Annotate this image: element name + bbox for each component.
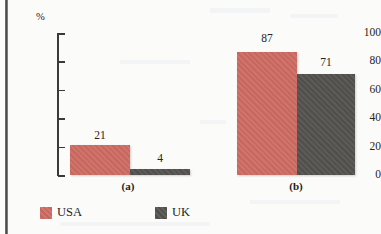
y-tick-40 — [58, 118, 65, 120]
legend-swatch-uk-icon — [155, 207, 167, 219]
plot-area: % 100 80 60 40 20 0 21 4 (a) 87 71 (b) — [0, 0, 381, 234]
y-axis-line — [57, 33, 59, 175]
legend-item-usa[interactable]: USA — [40, 206, 82, 219]
bar-usa-a[interactable] — [70, 145, 130, 175]
chart-figure: % 100 80 60 40 20 0 21 4 (a) 87 71 (b) — [0, 0, 381, 234]
legend-swatch-usa-icon — [40, 207, 52, 219]
bar-value-usa-a: 21 — [70, 129, 130, 141]
bar-value-uk-a: 4 — [130, 152, 190, 164]
y-tick-60 — [58, 90, 65, 92]
bar-value-uk-b: 71 — [297, 56, 355, 68]
y-axis-unit-label: % — [36, 11, 45, 22]
legend-label-usa: USA — [57, 206, 82, 219]
y-tick-80 — [58, 61, 65, 63]
bar-uk-b[interactable] — [297, 74, 355, 175]
legend-label-uk: UK — [172, 206, 190, 219]
bar-uk-a[interactable] — [130, 169, 190, 175]
legend-item-uk[interactable]: UK — [155, 206, 190, 219]
bar-usa-b[interactable] — [237, 52, 297, 176]
bar-value-usa-b: 87 — [237, 32, 297, 44]
y-tick-0 — [58, 175, 65, 177]
y-tick-100 — [58, 33, 65, 35]
legend: USA UK — [40, 206, 190, 219]
group-label-a: (a) — [98, 180, 158, 192]
y-tick-label-100: 100 — [345, 27, 381, 38]
y-tick-20 — [58, 147, 65, 149]
group-label-b: (b) — [266, 180, 326, 192]
